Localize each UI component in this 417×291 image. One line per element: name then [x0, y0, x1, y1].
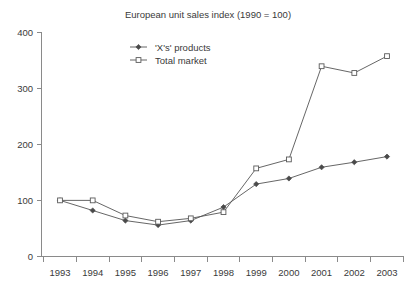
data-point-marker — [384, 154, 389, 159]
x-tick-label: 2003 — [376, 267, 397, 278]
x-tick-label: 1999 — [246, 267, 267, 278]
axes — [42, 32, 405, 257]
line-chart: European unit sales index (1990 = 100) 0… — [0, 0, 417, 291]
data-point-marker — [319, 64, 324, 69]
data-point-marker — [287, 157, 292, 162]
legend-label: Total market — [155, 55, 207, 66]
y-axis-ticks: 0100200300400 — [17, 27, 41, 263]
x-tick-label: 1996 — [148, 267, 169, 278]
x-tick-label: 1998 — [213, 267, 234, 278]
y-tick-label: 300 — [17, 83, 33, 94]
data-point-marker — [136, 44, 141, 49]
legend-label: 'X's' products — [155, 42, 211, 53]
x-axis-ticks: 1993199419951996199719981999200020012002… — [44, 257, 404, 279]
y-tick-label: 0 — [28, 251, 33, 262]
x-tick-label: 2002 — [344, 267, 365, 278]
x-tick-label: 1997 — [180, 267, 201, 278]
x-tick-label: 2000 — [278, 267, 299, 278]
chart-page: European unit sales index (1990 = 100) 0… — [0, 0, 417, 291]
x-tick-label: 1994 — [82, 267, 103, 278]
data-point-marker — [352, 160, 357, 165]
y-tick-label: 200 — [17, 139, 33, 150]
data-point-marker — [58, 198, 63, 203]
data-point-marker — [123, 213, 128, 218]
data-point-marker — [254, 166, 259, 171]
data-point-marker — [90, 208, 95, 213]
x-tick-label: 1995 — [115, 267, 136, 278]
y-tick-label: 100 — [17, 195, 33, 206]
chart-title: European unit sales index (1990 = 100) — [125, 9, 291, 20]
chart-legend: 'X's' productsTotal market — [130, 42, 211, 66]
data-point-marker — [123, 218, 128, 223]
data-point-marker — [156, 219, 161, 224]
data-point-marker — [286, 176, 291, 181]
data-point-marker — [221, 210, 226, 215]
data-point-marker — [188, 216, 193, 221]
data-point-marker — [136, 58, 141, 63]
x-tick-label: 1993 — [49, 267, 70, 278]
x-tick-label: 2001 — [311, 267, 332, 278]
data-point-marker — [352, 71, 357, 76]
data-point-marker — [319, 165, 324, 170]
y-tick-label: 400 — [17, 27, 33, 38]
series-line — [60, 56, 387, 222]
series-markers — [57, 54, 389, 228]
data-point-marker — [90, 198, 95, 203]
data-point-marker — [385, 54, 390, 59]
series-lines — [60, 56, 387, 225]
